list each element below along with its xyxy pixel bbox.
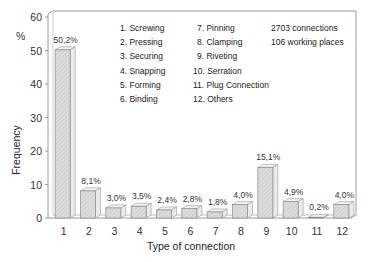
bar: 2,4% — [157, 195, 178, 218]
y-tick-label: 40 — [30, 78, 42, 90]
bar: 1,8% — [207, 197, 228, 218]
y-axis: 0102030405060 — [30, 11, 48, 224]
legend-item: 5. Forming — [120, 80, 161, 90]
bar: 50,2% — [54, 35, 79, 218]
x-tick-label: 5 — [162, 225, 168, 237]
x-tick-label: 9 — [263, 225, 269, 237]
x-tick-label: 1 — [61, 225, 67, 237]
legend-item: 6. Binding — [120, 94, 158, 104]
y-axis-title: Frequency — [10, 124, 22, 174]
legend-item: 3. Securing — [120, 51, 163, 61]
x-tick-label: 10 — [286, 225, 298, 237]
bar: 15,1% — [256, 152, 281, 218]
bar-value-label: 50,2% — [54, 35, 79, 45]
bar-value-label: 2,8% — [183, 194, 203, 204]
bar: 8,1% — [81, 176, 102, 218]
legend-item: 1. Screwing — [120, 23, 165, 33]
y-tick-label: 20 — [30, 145, 42, 157]
legend-item: 11. Plug Connection — [193, 80, 269, 90]
bar-value-label: 4,0% — [233, 190, 253, 200]
bars: 50,2%8,1%3,0%3,5%2,4%2,8%1,8%4,0%15,1%4,… — [54, 35, 355, 218]
legend-item: 7. Pinning — [197, 23, 235, 33]
bar-value-label: 1,8% — [208, 197, 228, 207]
x-tick-label: 7 — [213, 225, 219, 237]
bar-value-label: 2,4% — [157, 195, 177, 205]
bar: 0,2% — [309, 202, 330, 218]
x-tick-label: 2 — [86, 225, 92, 237]
legend-item: 2. Pressing — [120, 37, 163, 47]
x-axis-title: Type of connection — [147, 240, 235, 252]
frequency-bar-chart: 0102030405060 50,2%8,1%3,0%3,5%2,4%2,8%1… — [0, 0, 369, 262]
bar-value-label: 3,5% — [132, 191, 152, 201]
x-tick-label: 12 — [336, 225, 348, 237]
y-tick-label: 0 — [36, 212, 42, 224]
legend-item: 9. Riveting — [197, 51, 237, 61]
bar-value-label: 8,1% — [81, 176, 101, 186]
bar: 4,0% — [233, 190, 254, 218]
x-axis: 123456789101112 — [61, 225, 349, 237]
chart-annotation: 2703 connections — [271, 23, 338, 33]
legend-item: 12. Others — [193, 94, 233, 104]
x-tick-label: 3 — [111, 225, 117, 237]
y-tick-label: 10 — [30, 179, 42, 191]
bar: 2,8% — [182, 194, 203, 218]
bar: 3,5% — [131, 191, 152, 218]
bar: 3,0% — [106, 193, 127, 218]
legend-item: 4. Snapping — [120, 66, 166, 76]
bar-value-label: 4,0% — [335, 190, 355, 200]
bar-value-label: 0,2% — [309, 202, 329, 212]
x-tick-label: 6 — [187, 225, 193, 237]
bar-value-label: 15,1% — [256, 152, 281, 162]
y-tick-label: 30 — [30, 112, 42, 124]
bar-value-label: 3,0% — [107, 193, 127, 203]
x-tick-label: 8 — [238, 225, 244, 237]
y-axis-unit: % — [16, 30, 25, 42]
bar: 4,0% — [334, 190, 355, 218]
y-tick-label: 50 — [30, 45, 42, 57]
y-tick-label: 60 — [30, 11, 42, 23]
legend: 1. Screwing2. Pressing3. Securing4. Snap… — [120, 23, 344, 104]
chart-annotation: 106 working places — [271, 37, 344, 47]
bar: 4,9% — [283, 187, 304, 218]
legend-item: 10. Serration — [193, 66, 242, 76]
x-tick-label: 11 — [312, 225, 323, 237]
bar-value-label: 4,9% — [284, 187, 304, 197]
legend-item: 8. Clamping — [197, 37, 243, 47]
x-tick-label: 4 — [137, 225, 143, 237]
